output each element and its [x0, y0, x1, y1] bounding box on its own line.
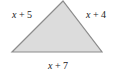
triangle-diagram: x + 5 x + 4 x + 7: [0, 0, 115, 74]
left-side-variable: x: [12, 9, 16, 20]
bottom-side-variable: x: [48, 60, 52, 71]
bottom-side-constant: 7: [63, 60, 68, 71]
left-side-constant: 5: [27, 9, 32, 20]
right-side-operator: +: [93, 9, 99, 20]
left-side-operator: +: [19, 9, 25, 20]
bottom-side-label: x + 7: [48, 61, 68, 71]
right-side-variable: x: [86, 9, 90, 20]
left-side-label: x + 5: [12, 10, 32, 20]
right-side-label: x + 4: [86, 10, 106, 20]
bottom-side-operator: +: [55, 60, 61, 71]
right-side-constant: 4: [101, 9, 106, 20]
